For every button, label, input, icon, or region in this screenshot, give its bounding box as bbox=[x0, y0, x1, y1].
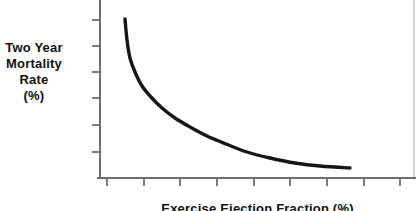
mortality-ejection-fraction-chart: Two Year Mortality Rate (%) Exercise Eje… bbox=[0, 0, 420, 211]
mortality-curve bbox=[125, 19, 350, 168]
plot-area bbox=[0, 0, 420, 211]
x-axis-label: Exercise Ejection Fraction (%) bbox=[150, 201, 365, 211]
